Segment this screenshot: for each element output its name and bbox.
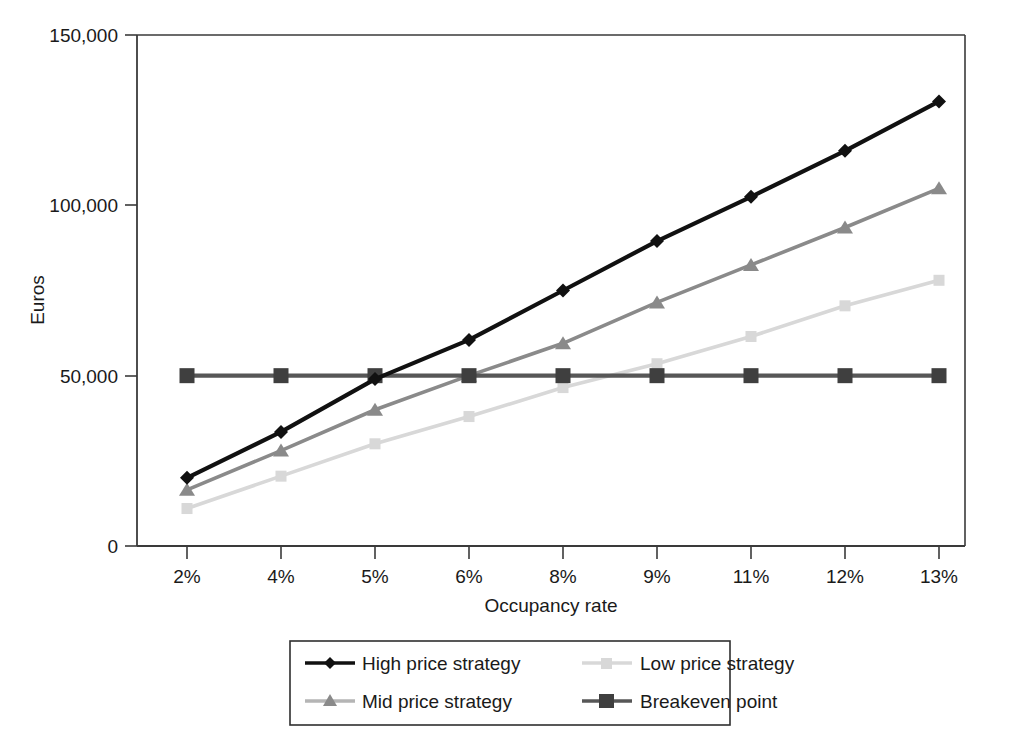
square-marker-icon — [601, 658, 612, 669]
x-tick-label-2: 5% — [361, 566, 389, 587]
x-tick-label-3: 6% — [455, 566, 483, 587]
square-marker-icon — [558, 382, 569, 393]
square-marker-icon — [274, 368, 289, 383]
series-breakeven-point — [180, 368, 947, 383]
plot-frame — [137, 35, 965, 546]
square-marker-icon — [276, 471, 287, 482]
x-tick-label-5: 9% — [643, 566, 671, 587]
legend-label-2: Mid price strategy — [362, 691, 512, 712]
square-marker-icon — [462, 368, 477, 383]
series-layer — [179, 94, 947, 514]
legend-label-1: Low price strategy — [640, 653, 795, 674]
chart-container: 150,000 100,000 50,000 0 Euros 2% 4% 5% … — [0, 0, 1012, 738]
legend-label-3: Breakeven point — [640, 691, 778, 712]
y-axis-ticks — [125, 35, 137, 546]
diamond-marker-icon — [744, 190, 758, 204]
square-marker-icon — [744, 368, 759, 383]
square-marker-icon — [464, 411, 475, 422]
y-tick-label-100000: 100,000 — [49, 195, 118, 216]
square-marker-icon — [370, 438, 381, 449]
square-marker-icon — [556, 368, 571, 383]
square-marker-icon — [840, 300, 851, 311]
square-marker-icon — [652, 358, 663, 369]
x-tick-label-8: 13% — [920, 566, 958, 587]
triangle-marker-icon — [931, 181, 947, 194]
line-chart: 150,000 100,000 50,000 0 Euros 2% 4% 5% … — [0, 0, 1012, 738]
x-tick-label-4: 8% — [549, 566, 577, 587]
square-marker-icon — [932, 368, 947, 383]
square-marker-icon — [182, 503, 193, 514]
legend: High price strategy Low price strategy M… — [290, 641, 795, 725]
y-tick-label-50000: 50,000 — [60, 366, 118, 387]
x-axis-ticks — [187, 546, 939, 559]
square-marker-icon — [650, 368, 665, 383]
square-marker-icon — [180, 368, 195, 383]
legend-label-0: High price strategy — [362, 653, 521, 674]
x-tick-label-1: 4% — [267, 566, 295, 587]
square-marker-icon — [838, 368, 853, 383]
square-marker-icon — [934, 275, 945, 286]
x-tick-label-0: 2% — [173, 566, 201, 587]
y-tick-label-150000: 150,000 — [49, 25, 118, 46]
series-mid-price-strategy — [179, 181, 947, 495]
series-high-price-strategy — [180, 94, 946, 484]
x-axis-title: Occupancy rate — [484, 595, 617, 616]
square-marker-icon — [746, 331, 757, 342]
series-low-price-strategy — [182, 275, 945, 514]
square-marker-icon — [599, 694, 614, 708]
x-tick-label-6: 11% — [733, 566, 770, 587]
diamond-marker-icon — [180, 471, 194, 485]
x-tick-label-7: 12% — [826, 566, 864, 587]
y-axis-title: Euros — [27, 275, 48, 325]
y-tick-label-0: 0 — [107, 536, 118, 557]
